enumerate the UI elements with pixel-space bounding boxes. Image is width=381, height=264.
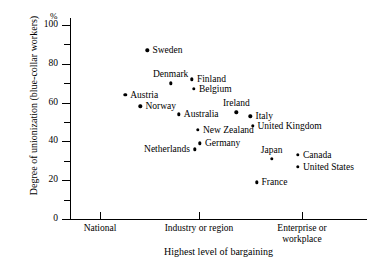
data-point	[249, 114, 252, 117]
data-point	[196, 128, 199, 131]
scatter-chart: % Degree of unionization (blue-collar wo…	[0, 0, 381, 264]
data-point	[139, 105, 142, 108]
y-minor-tick-50	[64, 122, 70, 123]
point-label: Belgium	[199, 84, 232, 94]
point-label: Denmark	[153, 69, 188, 79]
point-label: Austria	[130, 90, 158, 100]
point-label: Netherlands	[144, 144, 190, 154]
y-tick-100	[62, 25, 70, 26]
data-point	[255, 180, 258, 183]
point-label: Ireland	[223, 98, 250, 108]
y-minor-tick-70	[64, 83, 70, 84]
y-tick-40	[62, 141, 70, 142]
data-point	[296, 165, 299, 168]
x-tick-3	[302, 212, 303, 219]
x-axis-line	[70, 219, 367, 220]
point-label: United Kingdom	[258, 121, 322, 131]
point-label: Norway	[145, 101, 176, 111]
data-point	[270, 157, 273, 160]
x-tick-label-2: Industry or region	[139, 223, 259, 234]
data-point	[192, 87, 195, 90]
y-tick-label-80: 80	[34, 59, 58, 69]
data-point	[177, 113, 180, 116]
y-minor-tick-10	[64, 200, 70, 201]
data-point	[296, 153, 299, 156]
y-tick-60	[62, 103, 70, 104]
y-tick-0	[62, 219, 70, 220]
point-label: Canada	[303, 150, 332, 160]
y-tick-label-20: 20	[34, 175, 58, 185]
x-axis-title: Highest level of bargaining	[70, 246, 367, 257]
point-label: Japan	[261, 145, 283, 155]
y-tick-label-60: 60	[34, 98, 58, 108]
data-point	[169, 81, 172, 84]
data-point	[235, 111, 238, 114]
y-tick-20	[62, 180, 70, 181]
x-tick-1	[100, 212, 101, 219]
point-label: Australia	[184, 109, 219, 119]
point-label: Italy	[255, 111, 272, 121]
point-label: Finland	[197, 74, 226, 84]
y-minor-tick-30	[64, 161, 70, 162]
point-label: United States	[303, 162, 354, 172]
y-minor-tick-90	[64, 44, 70, 45]
data-point	[190, 78, 193, 81]
y-tick-label-100: 100	[34, 20, 58, 30]
data-point	[193, 147, 196, 150]
data-point	[146, 49, 149, 52]
point-label: France	[262, 177, 288, 187]
y-axis-line	[70, 18, 71, 220]
point-label: New Zealand	[203, 125, 254, 135]
y-tick-80	[62, 64, 70, 65]
data-point	[198, 142, 201, 145]
x-tick-2	[199, 212, 200, 219]
point-label: Germany	[205, 138, 240, 148]
y-tick-label-40: 40	[34, 136, 58, 146]
point-label: Sweden	[152, 45, 182, 55]
x-tick-label-3: Enterprise or workplace	[242, 223, 362, 245]
data-point	[124, 93, 127, 96]
